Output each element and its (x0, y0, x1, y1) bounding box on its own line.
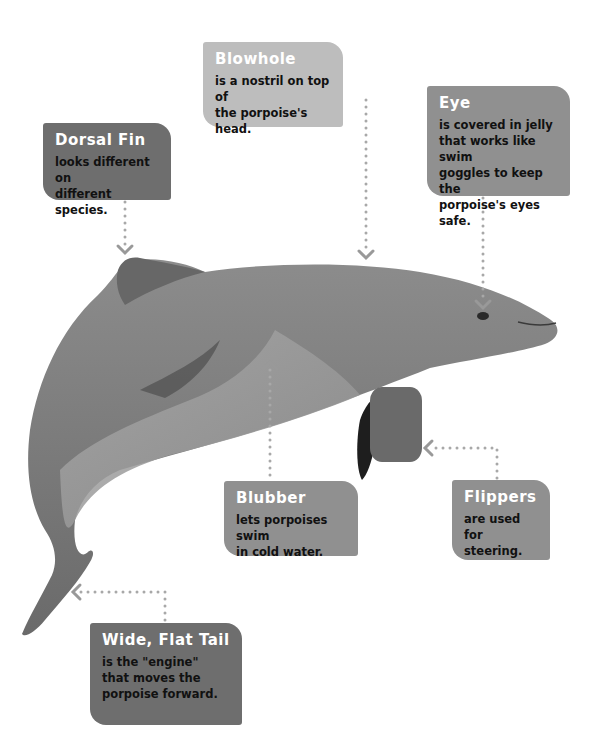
label-dorsal-fin: Dorsal Fin looks different on different … (43, 123, 171, 200)
label-title: Wide, Flat Tail (102, 631, 232, 649)
label-tail: Wide, Flat Tail is the "engine" that mov… (90, 623, 242, 725)
label-line: is the "engine" (102, 654, 232, 670)
porpoise-diagram: Dorsal Fin looks different on different … (0, 0, 591, 743)
label-eye: Eye is covered in jelly that works like … (427, 86, 570, 196)
eye-shape (477, 312, 489, 320)
flipper-front (370, 387, 422, 462)
label-line: porpoise's eyes safe. (439, 197, 560, 229)
label-line: that moves the (102, 670, 232, 686)
label-flippers: Flippers are used for steering. (452, 480, 550, 560)
label-line: that works like swim (439, 133, 560, 165)
label-title: Eye (439, 94, 560, 112)
label-line: looks different on (55, 154, 161, 186)
label-blubber: Blubber lets porpoises swim in cold wate… (224, 481, 358, 556)
label-title: Blowhole (215, 50, 333, 68)
label-title: Flippers (464, 488, 540, 506)
label-line: lets porpoises swim (236, 512, 348, 544)
label-line: different species. (55, 186, 161, 218)
label-line: goggles to keep the (439, 165, 560, 197)
label-line: porpoise forward. (102, 686, 232, 702)
label-line: is a nostril on top of (215, 73, 333, 105)
label-title: Dorsal Fin (55, 131, 161, 149)
label-line: in cold water. (236, 544, 348, 560)
label-blowhole: Blowhole is a nostril on top of the porp… (203, 42, 343, 127)
label-title: Blubber (236, 489, 348, 507)
label-line: the porpoise's head. (215, 105, 333, 137)
label-line: is covered in jelly (439, 117, 560, 133)
label-line: are used (464, 511, 540, 527)
label-line: for steering. (464, 527, 540, 559)
